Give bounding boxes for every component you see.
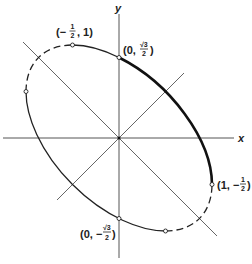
ellipse-arc-thick xyxy=(119,58,212,185)
point-zero-root3-over-2 xyxy=(117,56,121,60)
svg-text:√3: √3 xyxy=(140,41,148,48)
svg-text:): ) xyxy=(112,228,116,240)
point-one-minus-half xyxy=(210,183,214,187)
svg-text:(1, −: (1, − xyxy=(217,179,239,191)
svg-text:1: 1 xyxy=(241,176,245,183)
svg-text:): ) xyxy=(247,179,251,191)
origin-point xyxy=(118,137,121,140)
y-axis-label: y xyxy=(114,2,122,14)
svg-text:(−: (− xyxy=(56,26,66,38)
svg-text:(0, −: (0, − xyxy=(80,228,102,240)
point-half-minus-one xyxy=(164,229,168,233)
svg-text:2: 2 xyxy=(142,50,146,57)
label-one-minus-half: (1, − 1 2 ) xyxy=(217,176,251,192)
point-minus-half-one xyxy=(71,43,75,47)
svg-text:2: 2 xyxy=(105,234,109,241)
svg-text:(0,: (0, xyxy=(123,44,136,56)
svg-text:2: 2 xyxy=(71,32,75,39)
label-zero-minus-root3-over-2: (0, − √3 2 ) xyxy=(80,224,116,241)
label-minus-half-one: (− 1 2 , 1) xyxy=(56,23,93,39)
svg-text:1: 1 xyxy=(71,23,75,30)
svg-text:√3: √3 xyxy=(103,224,111,231)
point-minus-one-half xyxy=(24,90,28,94)
svg-text:): ) xyxy=(150,44,154,56)
x-axis-label: x xyxy=(237,132,245,144)
label-zero-root3-over-2: (0, √3 2 ) xyxy=(123,41,154,57)
svg-text:, 1): , 1) xyxy=(77,26,93,38)
ellipse-diagram: x y (− 1 2 , 1) (0, √3 2 ) (1, − 1 2 ) xyxy=(0,0,252,264)
ellipse-arc-upper-solid xyxy=(73,45,120,58)
point-zero-minus-root3-over-2 xyxy=(117,217,121,221)
svg-text:2: 2 xyxy=(241,185,245,192)
